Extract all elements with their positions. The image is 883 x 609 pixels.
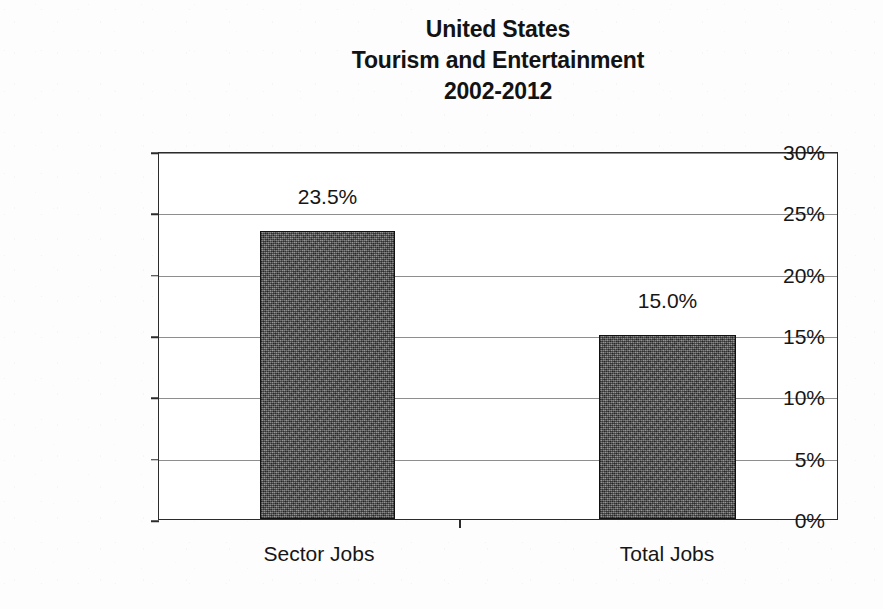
gridline-30 [159, 153, 837, 154]
y-tick-label-10: 10% [783, 386, 825, 410]
chart-canvas: United States Tourism and Entertainment … [0, 0, 883, 609]
plot-area: 30% 25% 20% 15% 10% 5% 0% 23.5% 15.0% [158, 152, 838, 520]
y-tick-label-0: 0% [795, 509, 825, 533]
y-tick-mark-0 [151, 520, 159, 522]
y-tick-mark-25 [151, 214, 159, 216]
y-tick-mark-15 [151, 336, 159, 338]
y-tick-label-30: 30% [783, 141, 825, 165]
x-tick-mark-midpoint [459, 519, 461, 528]
bar-sector-jobs[interactable] [260, 231, 395, 519]
y-tick-label-5: 5% [795, 448, 825, 472]
y-tick-mark-20 [151, 275, 159, 277]
y-tick-mark-10 [151, 398, 159, 400]
chart-title-line-3: 2002-2012 [158, 76, 838, 107]
bar-total-jobs[interactable] [599, 335, 736, 519]
x-category-label-sector-jobs: Sector Jobs [199, 542, 439, 566]
chart-title-line-2: Tourism and Entertainment [158, 45, 838, 76]
chart-title-line-1: United States [158, 14, 838, 45]
x-category-label-total-jobs: Total Jobs [547, 542, 787, 566]
chart-title: United States Tourism and Entertainment … [158, 14, 838, 107]
y-tick-label-25: 25% [783, 202, 825, 226]
y-tick-label-15: 15% [783, 325, 825, 349]
y-tick-mark-30 [151, 152, 159, 154]
bar-value-label-total-jobs: 15.0% [599, 289, 736, 313]
gridline-25 [159, 214, 837, 215]
bar-value-label-sector-jobs: 23.5% [260, 185, 395, 209]
y-tick-label-20: 20% [783, 264, 825, 288]
y-tick-mark-5 [151, 459, 159, 461]
